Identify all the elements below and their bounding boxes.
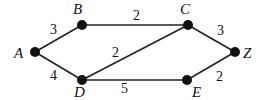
node-b [77,20,87,30]
edge-weight-label: 4 [50,68,57,83]
node-label: E [191,84,201,100]
edge-weight-label: 3 [217,23,224,38]
edge-a-b [35,25,82,52]
node-a [30,47,40,57]
edge-weight-label: 2 [133,8,140,23]
edge-weight-label: 5 [121,81,128,96]
graph-svg: 3422532ABCZDE [0,0,265,100]
node-label: D [73,84,85,100]
edge-weight-label: 2 [112,45,119,60]
edge-a-d [35,52,82,80]
edge-d-c [82,25,188,80]
node-label: A [13,45,24,61]
node-label: C [180,1,191,17]
edge-e-z [187,52,235,80]
edge-weight-label: 2 [216,69,223,84]
weighted-graph-diagram: 3422532ABCZDE [0,0,265,100]
edge-c-z [188,25,235,52]
node-c [183,20,193,30]
edge-weight-label: 3 [50,22,57,37]
node-label: Z [243,45,252,61]
node-z [230,47,240,57]
node-e [182,75,192,85]
node-label: B [73,1,82,17]
